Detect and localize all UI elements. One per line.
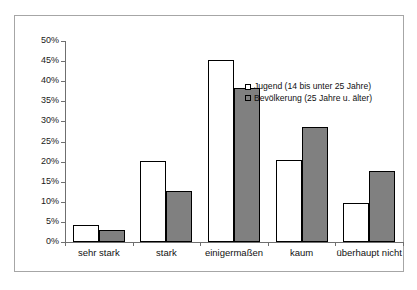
y-axis-tick-label: 15% — [41, 176, 59, 187]
legend-item[interactable]: Jugend (14 bis unter 25 Jahre) — [245, 81, 372, 93]
x-axis-line — [65, 242, 403, 243]
y-axis-tick-label: 20% — [41, 156, 59, 167]
x-axis-category-label: kaum — [268, 247, 336, 259]
legend-item-label: Jugend (14 bis unter 25 Jahre) — [254, 81, 371, 93]
y-axis-tick-label: 45% — [41, 55, 59, 66]
clipped-header-text — [14, 0, 254, 5]
bar[interactable] — [302, 127, 328, 242]
bar[interactable] — [140, 161, 166, 242]
bar-group-bars — [133, 41, 201, 242]
bar-group: sehr stark — [65, 41, 133, 242]
bar-group-bars — [335, 41, 403, 242]
legend-item-label: Bevölkerung (25 Jahre u. älter) — [254, 93, 372, 105]
chart-frame: 0%5%10%15%20%25%30%35%40%45%50% sehr sta… — [14, 15, 404, 272]
bar-group-bars — [268, 41, 336, 242]
legend-swatch-icon — [245, 95, 251, 101]
bar[interactable] — [234, 88, 260, 242]
x-axis-category-label: sehr stark — [65, 247, 133, 259]
legend-swatch-icon — [245, 84, 251, 90]
bar-group-bars — [65, 41, 133, 242]
y-axis-tick-label: 50% — [41, 35, 59, 46]
x-axis-tick-mark — [133, 242, 134, 246]
bar-group: einigermaßen — [200, 41, 268, 242]
bar[interactable] — [73, 225, 99, 242]
x-axis-tick-mark — [403, 242, 404, 246]
y-axis-tick-label: 35% — [41, 95, 59, 106]
y-axis-tick-label: 5% — [46, 216, 59, 227]
legend-item[interactable]: Bevölkerung (25 Jahre u. älter) — [245, 93, 372, 105]
bar[interactable] — [369, 171, 395, 242]
bar[interactable] — [343, 203, 369, 242]
y-axis-tick-label: 40% — [41, 75, 59, 86]
x-axis-category-label: einigermaßen — [200, 247, 268, 259]
y-axis-tick-label: 10% — [41, 196, 59, 207]
x-axis-tick-mark — [268, 242, 269, 246]
bar[interactable] — [99, 230, 125, 242]
bar-group: kaum — [268, 41, 336, 242]
y-axis-tick-label: 25% — [41, 136, 59, 147]
bar[interactable] — [208, 60, 234, 243]
x-axis-tick-mark — [335, 242, 336, 246]
x-axis-tick-mark — [200, 242, 201, 246]
bar-group-bars — [200, 41, 268, 242]
x-axis-category-label: stark — [133, 247, 201, 259]
bar[interactable] — [276, 160, 302, 242]
plot-area: 0%5%10%15%20%25%30%35%40%45%50% sehr sta… — [65, 41, 403, 242]
x-axis-tick-mark — [65, 242, 66, 246]
x-axis-category-label: überhaupt nicht — [335, 247, 403, 259]
y-axis-tick-label: 30% — [41, 115, 59, 126]
bar-group: stark — [133, 41, 201, 242]
bar[interactable] — [166, 191, 192, 242]
y-axis-tick-label: 0% — [46, 236, 59, 247]
chart-legend: Jugend (14 bis unter 25 Jahre)Bevölkerun… — [245, 81, 372, 104]
bar-group: überhaupt nicht — [335, 41, 403, 242]
